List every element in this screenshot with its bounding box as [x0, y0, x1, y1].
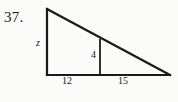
- triangle-diagram: [0, 0, 178, 102]
- left-side-length-label: z: [36, 38, 40, 48]
- figure-container: 37. z 4 12 15: [0, 0, 178, 102]
- base-left-segment-label: 12: [62, 76, 72, 86]
- problem-number-label: 37.: [4, 10, 24, 25]
- inner-height-label: 4: [91, 50, 96, 60]
- hypotenuse-line: [47, 9, 170, 75]
- base-right-segment-label: 15: [118, 76, 128, 86]
